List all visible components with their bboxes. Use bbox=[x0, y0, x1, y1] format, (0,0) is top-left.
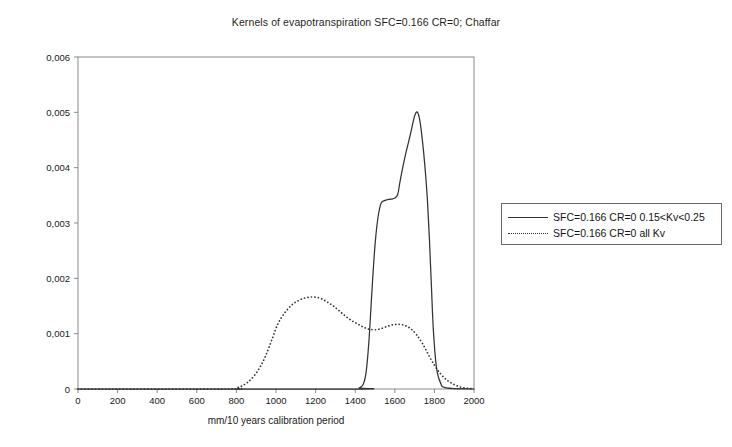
x-tick-label: 1800 bbox=[424, 395, 445, 406]
legend-label-dotted: SFC=0.166 CR=0 all Kv bbox=[553, 227, 665, 240]
y-axis-ticks bbox=[74, 57, 78, 389]
chart-legend: SFC=0.166 CR=0 0.15<Kv<0.25 SFC=0.166 CR… bbox=[501, 203, 722, 245]
y-tick-label: 0,006 bbox=[46, 52, 70, 63]
x-tick-label: 400 bbox=[149, 395, 165, 406]
y-tick-label: 0 bbox=[65, 384, 70, 395]
plot-frame bbox=[78, 57, 474, 389]
y-tick-label: 0,005 bbox=[46, 107, 70, 118]
legend-item-dotted: SFC=0.166 CR=0 all Kv bbox=[508, 225, 715, 241]
y-tick-label: 0,002 bbox=[46, 273, 70, 284]
y-axis-tick-labels: 00,0010,0020,0030,0040,0050,006 bbox=[46, 52, 70, 395]
y-tick-label: 0,003 bbox=[46, 218, 70, 229]
x-tick-label: 1200 bbox=[305, 395, 326, 406]
x-tick-label: 2000 bbox=[463, 395, 484, 406]
legend-label-solid: SFC=0.166 CR=0 0.15<Kv<0.25 bbox=[553, 211, 705, 224]
chart-figure: Kernels of evapotranspiration SFC=0.166 … bbox=[0, 0, 732, 447]
x-tick-label: 600 bbox=[189, 395, 205, 406]
x-tick-label: 0 bbox=[75, 395, 80, 406]
x-axis-title: mm/10 years calibration period bbox=[208, 415, 345, 426]
x-tick-label: 200 bbox=[110, 395, 126, 406]
x-tick-label: 800 bbox=[228, 395, 244, 406]
x-axis-tick-labels: 0200400600800100012001400160018002000 bbox=[75, 395, 484, 406]
legend-item-solid: SFC=0.166 CR=0 0.15<Kv<0.25 bbox=[508, 209, 715, 225]
legend-swatch-solid-line-icon bbox=[508, 212, 548, 222]
y-tick-label: 0,004 bbox=[46, 162, 70, 173]
x-tick-label: 1400 bbox=[345, 395, 366, 406]
legend-swatch-dotted-line-icon bbox=[508, 228, 548, 238]
y-tick-label: 0,001 bbox=[46, 328, 70, 339]
x-tick-label: 1000 bbox=[265, 395, 286, 406]
x-tick-label: 1600 bbox=[384, 395, 405, 406]
